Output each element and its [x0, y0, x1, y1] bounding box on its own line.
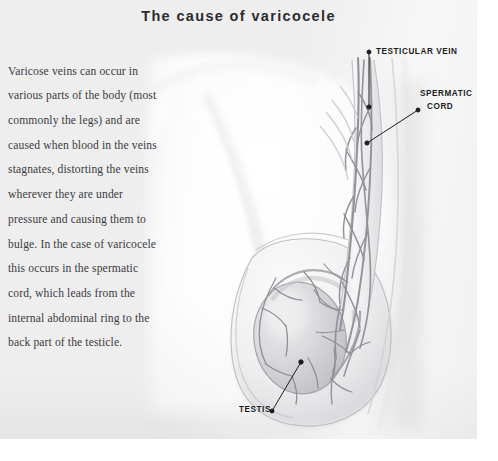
callout-leader-lines	[0, 0, 477, 439]
label-testis: TESTIS	[239, 404, 271, 417]
label-testicular-vein: TESTICULAR VEIN	[376, 46, 458, 59]
leader-dot-spermatic-cord-target	[365, 141, 369, 145]
page-canvas: The cause of varicocele Varicose veins c…	[0, 0, 498, 461]
leader-line-testis	[272, 362, 301, 411]
leader-dot-testicular-vein-bottom	[367, 105, 371, 109]
page-sheet: The cause of varicocele Varicose veins c…	[0, 0, 477, 439]
label-spermatic-cord-line2: CORD	[427, 101, 473, 114]
leader-line-spermatic-cord	[367, 110, 418, 143]
label-spermatic-cord: SPERMATIC CORD	[420, 88, 473, 113]
leader-dot-testis-target	[299, 360, 303, 364]
label-spermatic-cord-line1: SPERMATIC	[420, 89, 473, 98]
leader-dot-testicular-vein-top	[367, 50, 371, 54]
